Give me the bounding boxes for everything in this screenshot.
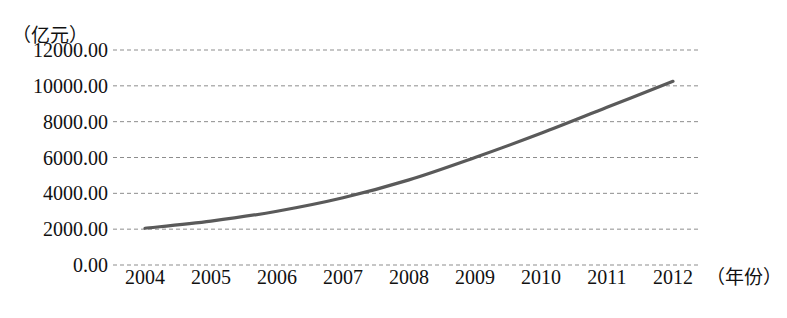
data-series xyxy=(113,50,701,265)
y-axis-tick-label: 2000.00 xyxy=(0,219,108,239)
y-axis-tick-labels: 12000.0010000.008000.006000.004000.00200… xyxy=(0,0,108,318)
line-chart: （亿元） 12000.0010000.008000.006000.004000.… xyxy=(0,0,787,318)
plot-area xyxy=(113,50,701,265)
x-axis-tick-label: 2011 xyxy=(577,267,637,287)
series-line xyxy=(145,81,673,228)
y-axis-tick-label: 0.00 xyxy=(0,255,108,275)
x-axis-tick-label: 2012 xyxy=(643,267,703,287)
x-axis-unit-label: （年份） xyxy=(706,262,782,289)
y-axis-tick-label: 6000.00 xyxy=(0,148,108,168)
x-axis-tick-label: 2004 xyxy=(115,267,175,287)
y-axis-tick-label: 12000.00 xyxy=(0,40,108,60)
y-axis-tick-label: 10000.00 xyxy=(0,76,108,96)
x-axis-tick-label: 2010 xyxy=(511,267,571,287)
y-axis-tick-label: 4000.00 xyxy=(0,183,108,203)
x-axis-tick-label: 2005 xyxy=(181,267,241,287)
x-axis-tick-label: 2006 xyxy=(247,267,307,287)
y-axis-tick-label: 8000.00 xyxy=(0,112,108,132)
x-axis-tick-label: 2009 xyxy=(445,267,505,287)
x-axis-tick-label: 2008 xyxy=(379,267,439,287)
x-axis-tick-label: 2007 xyxy=(313,267,373,287)
